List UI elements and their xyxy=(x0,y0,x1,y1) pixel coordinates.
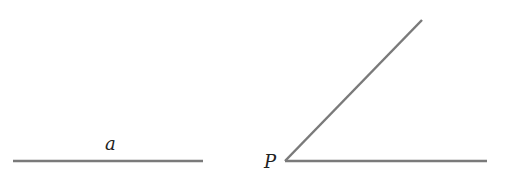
segment-a: a xyxy=(13,133,203,161)
geometry-diagram: a P xyxy=(0,0,525,187)
angle-p: P xyxy=(263,20,487,172)
angle-upper-ray xyxy=(285,20,422,161)
vertex-p-label: P xyxy=(263,151,277,172)
segment-a-label: a xyxy=(105,133,116,154)
